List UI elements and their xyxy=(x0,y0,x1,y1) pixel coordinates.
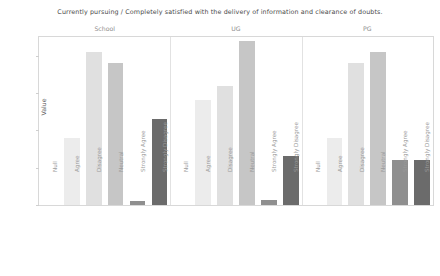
x-tick-label: Strongly Agree xyxy=(402,130,409,172)
bar[interactable] xyxy=(130,201,146,205)
bar[interactable] xyxy=(370,52,386,205)
x-tick-label: Disagree xyxy=(227,147,234,172)
x-tick-label: Agree xyxy=(337,156,344,172)
bar-group xyxy=(302,37,433,205)
x-tick-label: Null xyxy=(315,161,322,172)
y-tick-mark xyxy=(36,205,39,206)
bar-group xyxy=(170,37,301,205)
facet-label-ug: UG xyxy=(170,24,301,34)
x-tick-label: Disagree xyxy=(359,147,366,172)
panel-ug xyxy=(170,37,301,205)
bar[interactable] xyxy=(261,200,277,205)
x-tick-label: Strongly Disagree xyxy=(293,122,300,172)
x-tick-label: Disagree xyxy=(96,147,103,172)
bar[interactable] xyxy=(239,41,255,205)
x-tick-label: Agree xyxy=(74,156,81,172)
x-tick-label: Strongly Disagree xyxy=(162,122,169,172)
x-tick-label: Null xyxy=(52,161,59,172)
bar[interactable] xyxy=(195,100,211,205)
bar[interactable] xyxy=(86,52,102,205)
bar[interactable] xyxy=(348,63,364,205)
facet-label-school: School xyxy=(39,24,170,34)
x-tick-label: Neutral xyxy=(380,151,387,172)
x-tick-label: Null xyxy=(183,161,190,172)
facet-label-pg: PG xyxy=(302,24,433,34)
panel-pg xyxy=(302,37,433,205)
x-tick-label: Strongly Disagree xyxy=(424,122,431,172)
bar-group xyxy=(39,37,170,205)
plot-area: Value 05101520 xyxy=(38,36,434,206)
x-tick-label: Strongly Agree xyxy=(271,130,278,172)
panel-school xyxy=(39,37,170,205)
chart-container: Currently pursuing / Completely satisfie… xyxy=(0,0,440,276)
bar[interactable] xyxy=(217,86,233,205)
x-tick-label: Agree xyxy=(205,156,212,172)
x-tick-label: Neutral xyxy=(118,151,125,172)
bar[interactable] xyxy=(108,63,124,205)
x-tick-label: Neutral xyxy=(249,151,256,172)
chart-title: Currently pursuing / Completely satisfie… xyxy=(0,8,440,17)
x-tick-label: Strongly Agree xyxy=(140,130,147,172)
